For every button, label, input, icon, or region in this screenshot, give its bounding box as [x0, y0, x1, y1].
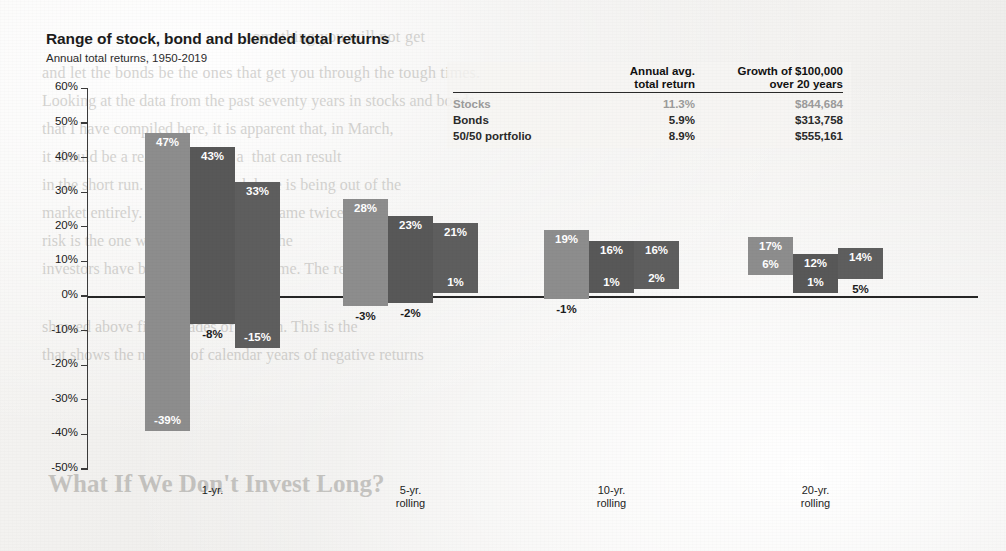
y-tick-label: 60% [36, 80, 78, 92]
x-label-line1: 5-yr. [351, 484, 471, 497]
y-tick [81, 468, 88, 469]
legend-growth-value: $313,758 [695, 112, 843, 128]
bar-max-label: 33% [235, 185, 280, 197]
y-tick [81, 88, 88, 89]
bar-50-50-portfolio[interactable] [235, 182, 280, 348]
y-tick [81, 192, 88, 193]
legend-rows: Stocks11.3%$844,684Bonds5.9%$313,75850/5… [453, 96, 843, 144]
y-tick [81, 122, 88, 123]
bar-min-label: 1% [589, 276, 634, 288]
bar-min-label: 5% [838, 283, 883, 295]
y-tick-label: -50% [36, 461, 78, 473]
legend-avg-return: 5.9% [591, 112, 695, 128]
x-axis-label: 10-yr.rolling [552, 484, 672, 510]
bar-min-label: 2% [634, 272, 679, 284]
y-tick-label: -40% [36, 426, 78, 438]
chart-title: Range of stock, bond and blended total r… [46, 30, 389, 48]
x-axis-label: 5-yr.rolling [351, 484, 471, 510]
legend-header-spacer [453, 65, 591, 93]
bar-max-label: 14% [838, 251, 883, 263]
legend-avg-return: 11.3% [591, 96, 695, 112]
x-label-line1: 1-yr. [153, 484, 273, 497]
x-label-line2: rolling [351, 497, 471, 510]
y-tick [81, 261, 88, 262]
bar-max-label: 19% [544, 233, 589, 245]
y-tick [81, 330, 88, 331]
bar-min-label: -15% [235, 331, 280, 343]
y-tick [81, 434, 88, 435]
y-tick [81, 226, 88, 227]
y-tick-label: 0% [36, 288, 78, 300]
chart-subtitle: Annual total returns, 1950-2019 [46, 52, 207, 64]
x-label-line2: rolling [756, 497, 876, 510]
y-tick [81, 157, 88, 158]
x-axis-label: 20-yr.rolling [756, 484, 876, 510]
bar-min-label: -2% [388, 307, 433, 319]
y-tick-label: -30% [36, 392, 78, 404]
legend-series-name: 50/50 portfolio [453, 128, 591, 144]
legend-series-name: Bonds [453, 112, 591, 128]
bar-max-label: 17% [748, 240, 793, 252]
legend-avg-return: 8.9% [591, 128, 695, 144]
y-tick-label: -10% [36, 323, 78, 335]
legend-growth-value: $555,161 [695, 128, 843, 144]
bar-max-label: 21% [433, 226, 478, 238]
bar-min-label: -8% [190, 328, 235, 340]
bar-stocks[interactable] [343, 199, 388, 306]
legend-header-avg-line2: total return [634, 78, 695, 90]
bar-max-label: 43% [190, 150, 235, 162]
x-label-line1: 10-yr. [552, 484, 672, 497]
bar-max-label: 16% [634, 244, 679, 256]
bar-bonds[interactable] [190, 147, 235, 323]
legend-header-avg-line1: Annual avg. [630, 65, 695, 77]
y-tick-label: 30% [36, 184, 78, 196]
legend-row: 50/50 portfolio8.9%$555,161 [453, 128, 843, 144]
legend-header-growth-line2: over 20 years [769, 78, 843, 90]
y-tick-label: 40% [36, 150, 78, 162]
bar-min-label: 1% [433, 276, 478, 288]
x-label-line1: 20-yr. [756, 484, 876, 497]
bar-max-label: 47% [145, 136, 190, 148]
bar-min-label: -39% [145, 414, 190, 426]
legend-growth-value: $844,684 [695, 96, 843, 112]
y-tick-label: 50% [36, 115, 78, 127]
legend-header-growth: Growth of $100,000 over 20 years [695, 65, 843, 93]
x-axis-label: 1-yr. [153, 484, 273, 497]
legend-header-growth-line1: Growth of $100,000 [738, 65, 843, 77]
bar-max-label: 23% [388, 219, 433, 231]
y-tick [81, 295, 88, 296]
legend-header-avg: Annual avg. total return [591, 65, 695, 93]
y-tick-label: -20% [36, 357, 78, 369]
legend-row: Bonds5.9%$313,758 [453, 112, 843, 128]
bar-max-label: 28% [343, 202, 388, 214]
bar-min-label: 6% [748, 258, 793, 270]
chart-figure: Range of stock, bond and blended total r… [0, 0, 1006, 551]
y-tick-label: 20% [36, 219, 78, 231]
y-tick [81, 365, 88, 366]
legend-table: Annual avg. total return Growth of $100,… [447, 62, 851, 148]
bar-max-label: 12% [793, 257, 838, 269]
y-tick-label: 10% [36, 253, 78, 265]
bar-min-label: -1% [544, 303, 589, 315]
x-label-line2: rolling [552, 497, 672, 510]
bar-max-label: 16% [589, 244, 634, 256]
bar-stocks[interactable] [145, 133, 190, 431]
legend-series-name: Stocks [453, 96, 591, 112]
legend-row: Stocks11.3%$844,684 [453, 96, 843, 112]
y-tick [81, 399, 88, 400]
bar-min-label: 1% [793, 276, 838, 288]
bar-min-label: -3% [343, 310, 388, 322]
